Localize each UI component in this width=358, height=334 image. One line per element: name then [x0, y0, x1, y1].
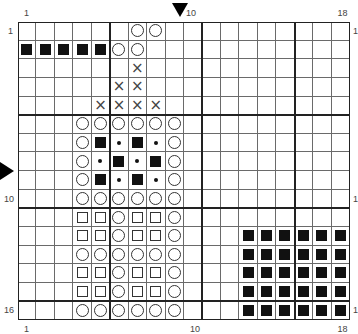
- grid-frame: [18, 22, 350, 320]
- column-number-top: 1: [24, 8, 29, 18]
- row-number-right: 1: [353, 26, 358, 36]
- row-marker-arrow-icon: [0, 162, 14, 180]
- row-number-left: 1: [8, 26, 13, 36]
- column-number-top: 18: [338, 8, 348, 18]
- chart-grid: ×××××××: [18, 22, 350, 320]
- column-number-bottom: 18: [338, 324, 348, 334]
- row-number-right: 1: [353, 305, 358, 315]
- column-number-bottom: 10: [190, 324, 200, 334]
- row-number-left: 10: [4, 194, 14, 204]
- row-number-right: 1: [353, 194, 358, 204]
- column-number-bottom: 1: [24, 324, 29, 334]
- row-number-left: 16: [4, 305, 14, 315]
- column-marker-arrow-icon: [172, 3, 188, 17]
